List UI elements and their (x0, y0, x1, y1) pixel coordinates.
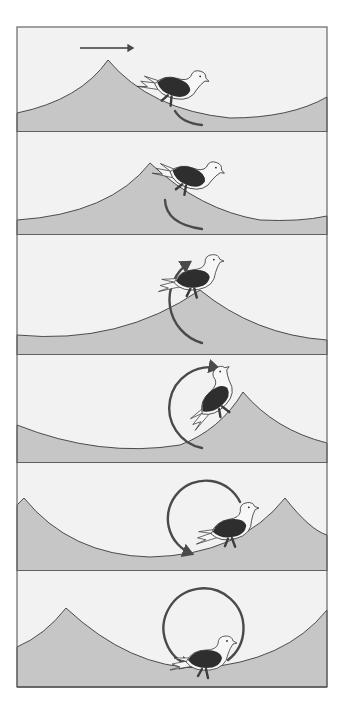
panel-5 (17, 463, 327, 571)
seabird-wave-sequence-diagram (0, 0, 344, 702)
panel-2 (17, 132, 327, 235)
diagram-canvas (0, 0, 344, 702)
panel-3 (17, 235, 327, 355)
panel-4 (17, 355, 327, 463)
panel-6 (17, 571, 327, 687)
panel-1 (17, 27, 327, 132)
